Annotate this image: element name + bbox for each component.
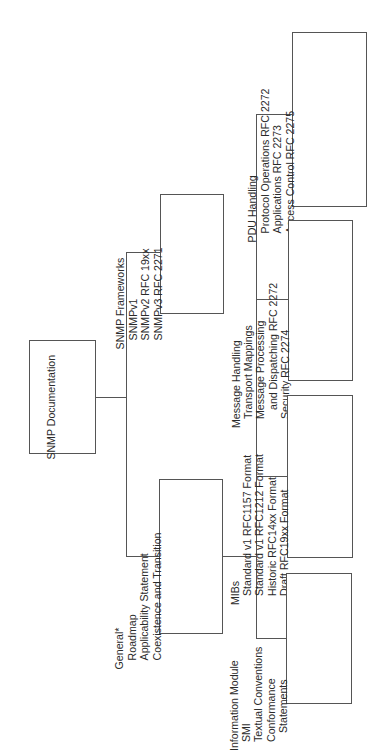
node-line: Conformance [265, 647, 277, 751]
node-line: SNMPv1 [126, 247, 139, 349]
node-title: General* [113, 533, 126, 670]
node-snmp-documentation: SNMP Documentation [29, 340, 96, 454]
connector-to-info [256, 638, 287, 639]
node-line: Historic RFC14xx Format [266, 454, 278, 605]
node-snmp-frameworks: SNMP Frameworks SNMPv1 SNMPv2 RFC 19xx S… [160, 194, 224, 314]
node-information-module: Information Module SMI Textual Conventio… [286, 573, 352, 704]
node-line: Applications RFC 2273 [271, 89, 284, 243]
node-mibs: MIBs Standard v1 RFC1157 Format Standard… [287, 395, 353, 558]
node-line: Protocol Operations RFC 2272 [258, 89, 271, 243]
node-title: SNMP Frameworks [114, 247, 127, 349]
node-line: Statements [277, 647, 289, 751]
node-line: Standard v1 RFC1157 Format [241, 454, 253, 605]
connector-root-to-trunk [95, 397, 127, 398]
node-title: Message Handling [230, 283, 242, 428]
node-line: Standard v1 RFC1212 Format [253, 454, 265, 605]
node-line: SNMPv2 RFC 19xx [139, 247, 152, 349]
node-line: SMI [240, 647, 252, 751]
node-line: Applicability Statement [138, 533, 151, 670]
node-line: and Dispatching RFC 2272 [267, 283, 279, 428]
node-title: PDU Handling [246, 89, 259, 243]
node-line: Coexistence and Transition [150, 533, 163, 670]
node-line: Textual Conventions [252, 647, 264, 751]
node-message-handling: Message Handling Transport Mappings Mess… [288, 220, 353, 381]
node-line: SNMPv3 RFC 2271 [151, 247, 164, 349]
node-line: Transport Mappings [242, 283, 254, 428]
node-label: SNMP Documentation [45, 355, 58, 460]
node-title: Information Module [228, 647, 240, 751]
node-line: Roadmap [125, 533, 138, 670]
node-line: Message Processing [254, 283, 266, 428]
node-pdu-handling: PDU Handling Protocol Operations RFC 227… [292, 32, 367, 207]
node-title: MIBs [229, 454, 241, 605]
node-general: General* Roadmap Applicability Statement… [159, 479, 223, 634]
